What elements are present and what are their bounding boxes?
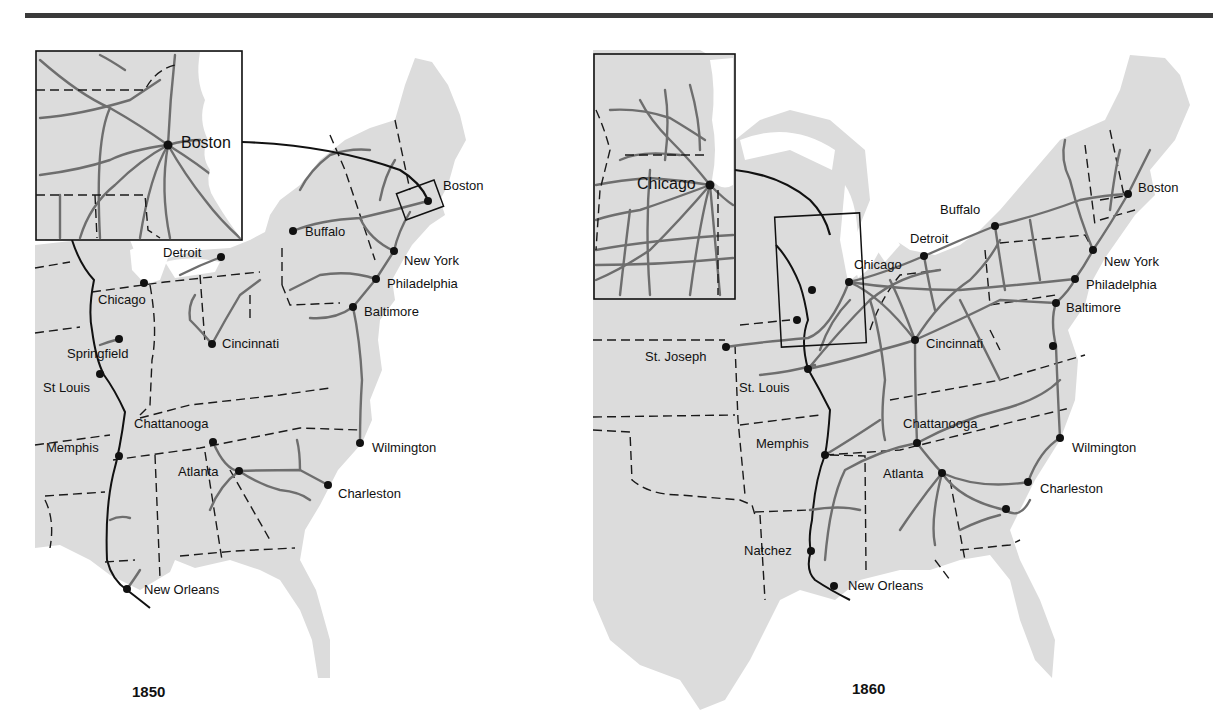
city-label-st-louis: St. Louis [739,380,790,395]
inset-label-boston: Boston [181,134,231,152]
city-label-buffalo: Buffalo [940,202,980,217]
year-label-1860: 1860 [852,680,885,697]
city-label-chattanooga: Chattanooga [134,416,208,431]
city-label-wilmington: Wilmington [372,440,436,455]
city-label-atlanta: Atlanta [883,466,923,481]
city-label-st-louis: St Louis [43,380,90,395]
city-label-detroit: Detroit [910,231,948,246]
city-label-philadelphia: Philadelphia [387,276,458,291]
city-label-wilmington: Wilmington [1072,440,1136,455]
city-label-boston: Boston [1138,180,1178,195]
city-label-chicago: Chicago [98,292,146,307]
city-label-new-york: New York [1104,254,1159,269]
city-label-charleston: Charleston [1040,481,1103,496]
city-label-charleston: Charleston [338,486,401,501]
city-label-new-orleans: New Orleans [848,578,923,593]
year-label-1850: 1850 [132,683,165,700]
city-label-atlanta: Atlanta [178,464,218,479]
city-label-memphis: Memphis [756,436,809,451]
city-label-springfield: Springfield [67,346,128,361]
city-label-cincinnati: Cincinnati [222,336,279,351]
city-label-chattanooga: Chattanooga [903,416,977,431]
city-label-memphis: Memphis [46,440,99,455]
city-label-chicago: Chicago [854,257,902,272]
city-label-boston: Boston [443,178,483,193]
city-label-baltimore: Baltimore [1066,300,1121,315]
city-label-new-york: New York [404,253,459,268]
city-label-st-joseph: St. Joseph [645,349,706,364]
city-label-philadelphia: Philadelphia [1086,277,1157,292]
city-label-natchez: Natchez [744,543,792,558]
city-label-cincinnati: Cincinnati [926,336,983,351]
city-label-buffalo: Buffalo [305,224,345,239]
city-label-new-orleans: New Orleans [144,582,219,597]
city-label-baltimore: Baltimore [364,304,419,319]
city-label-detroit: Detroit [163,245,201,260]
railroad-maps [0,0,1213,725]
map-1850 [35,51,466,678]
inset-label-chicago: Chicago [637,175,696,193]
map-1860 [593,50,1190,710]
